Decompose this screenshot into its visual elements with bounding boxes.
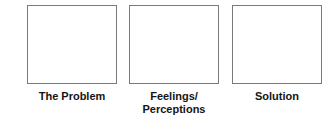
diagram-box-solution[interactable] — [232, 5, 322, 84]
diagram-column-solution: Solution — [222, 5, 328, 103]
diagram-caption-feelings: Feelings/ Perceptions — [119, 90, 229, 116]
diagram-caption-solution: Solution — [222, 90, 328, 103]
diagram-column-problem: The Problem — [17, 5, 127, 103]
diagram-box-problem[interactable] — [27, 5, 117, 84]
diagram-column-feelings: Feelings/ Perceptions — [119, 5, 229, 116]
three-box-diagram: The Problem Feelings/ Perceptions Soluti… — [0, 0, 328, 123]
diagram-caption-problem: The Problem — [17, 90, 127, 103]
diagram-box-feelings[interactable] — [129, 5, 219, 84]
